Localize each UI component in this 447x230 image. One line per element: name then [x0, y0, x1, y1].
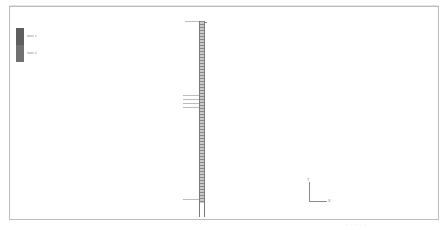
legend-label-2: item 2	[27, 51, 37, 55]
model-viewport[interactable]	[9, 6, 439, 220]
y-axis-arrow-icon	[309, 182, 310, 202]
axis-triad: Y X	[305, 182, 331, 204]
structure-left-edge	[199, 21, 200, 217]
structure-right-edge	[204, 21, 205, 217]
legend	[16, 28, 24, 62]
legend-swatch-2	[16, 45, 24, 62]
mid-guide-line-4	[183, 107, 200, 108]
status-text: · · · · ·	[346, 222, 366, 227]
x-axis-arrow-icon	[309, 201, 327, 202]
mid-guide-line-1	[183, 95, 200, 96]
legend-label-1: item 1	[27, 34, 37, 38]
mid-guide-line-2	[183, 99, 200, 100]
vertical-structure[interactable]	[199, 21, 205, 217]
mid-guide-line-3	[183, 103, 200, 104]
y-axis-label: Y	[307, 177, 309, 182]
x-axis-label: X	[328, 198, 331, 203]
legend-swatch-1	[16, 28, 24, 45]
